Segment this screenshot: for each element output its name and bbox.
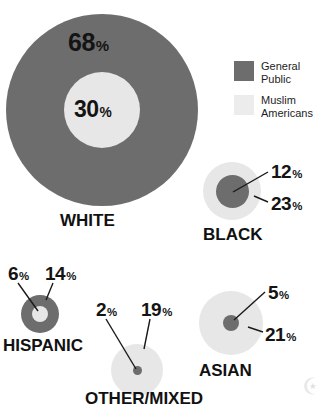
group-label-asian: ASIAN bbox=[199, 362, 252, 379]
value-asian-muslim-americans: 21% bbox=[265, 325, 296, 344]
star-and-crescent-icon bbox=[299, 375, 321, 397]
value-asian-general-public: 5% bbox=[268, 283, 289, 302]
bubble-hispanic-muslim-americans[interactable] bbox=[32, 306, 48, 322]
legend-item-muslim-americans[interactable]: Muslim Americans bbox=[234, 94, 329, 119]
value-white-muslim-americans: 30% bbox=[74, 98, 112, 121]
legend-label-muslim-americans-line1: Muslim bbox=[261, 94, 313, 107]
legend-item-general-public[interactable]: General Public bbox=[234, 60, 329, 85]
legend-label-muslim-americans: Muslim Americans bbox=[261, 94, 313, 119]
group-label-hispanic: HISPANIC bbox=[3, 337, 83, 354]
footnote bbox=[200, 410, 328, 418]
group-label-white: WHITE bbox=[60, 212, 115, 229]
value-hispanic-general-public: 14% bbox=[45, 264, 76, 283]
legend-label-general-public-line2: Public bbox=[261, 73, 300, 86]
legend-swatch-general-public bbox=[234, 61, 254, 81]
legend-swatch-muslim-americans bbox=[234, 95, 254, 115]
value-black-muslim-americans: 23% bbox=[271, 194, 302, 213]
legend: General Public Muslim Americans bbox=[234, 60, 329, 128]
value-hispanic-muslim-americans: 6% bbox=[8, 264, 29, 283]
bubble-black-general-public[interactable] bbox=[216, 175, 249, 208]
value-white-general-public: 68% bbox=[68, 30, 109, 55]
legend-label-muslim-americans-line2: Americans bbox=[261, 107, 313, 120]
group-label-other-mixed: OTHER/MIXED bbox=[85, 390, 203, 407]
nested-circle-chart: 68% 30% WHITE 12% 23% BLACK 6% 14% HISPA… bbox=[0, 0, 329, 419]
bubble-asian-general-public[interactable] bbox=[223, 315, 239, 331]
bubble-other-mixed-general-public[interactable] bbox=[133, 366, 142, 375]
value-black-general-public: 12% bbox=[271, 162, 302, 181]
legend-label-general-public-line1: General bbox=[261, 60, 300, 73]
legend-label-general-public: General Public bbox=[261, 60, 300, 85]
value-other-mixed-general-public: 2% bbox=[96, 300, 117, 319]
value-other-mixed-muslim-americans: 19% bbox=[141, 300, 172, 319]
group-label-black: BLACK bbox=[203, 226, 263, 243]
